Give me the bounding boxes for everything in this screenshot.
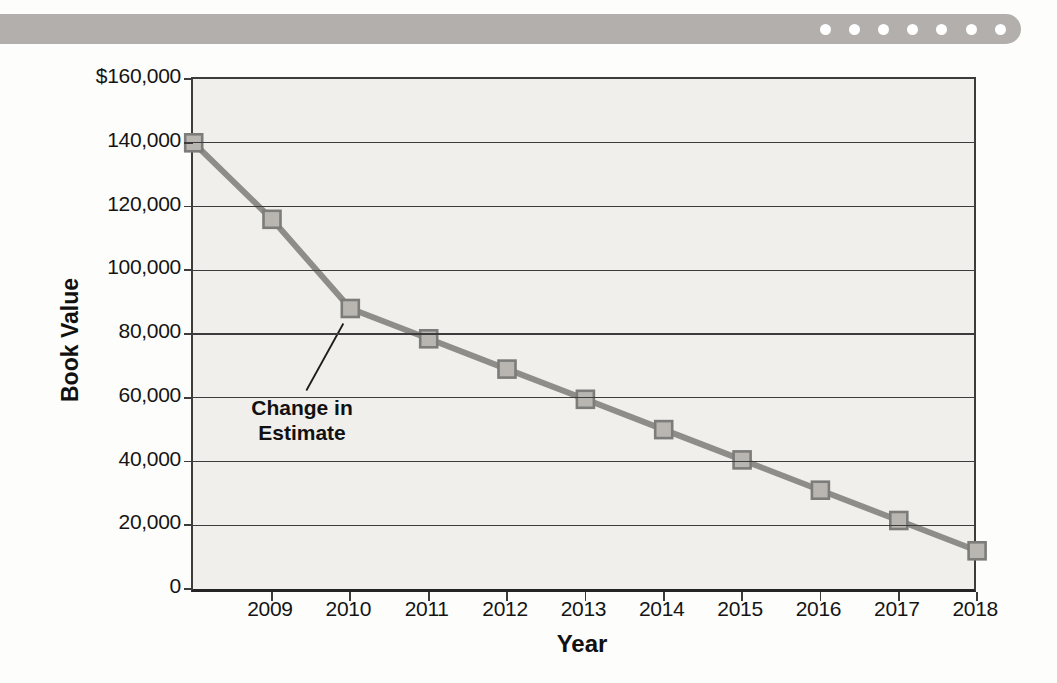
chart-figure: Book Value Change in Estimate Year $160,… xyxy=(0,0,1057,683)
y-axis-tick xyxy=(184,461,193,463)
data-point-marker xyxy=(264,211,281,228)
x-axis-title: Year xyxy=(557,630,608,658)
x-axis-tick-label: 2013 xyxy=(543,597,623,621)
gridline xyxy=(193,397,974,398)
data-point-marker xyxy=(577,391,594,408)
x-axis-tick-label: 2015 xyxy=(700,597,780,621)
gridline xyxy=(193,461,974,462)
data-point-marker xyxy=(655,421,672,438)
x-axis-tick-label: 2010 xyxy=(308,597,388,621)
x-axis-tick-label: 2009 xyxy=(230,597,310,621)
y-axis-tick-label: $160,000 xyxy=(0,64,181,88)
data-point-marker xyxy=(890,512,907,529)
data-point-marker xyxy=(812,482,829,499)
y-axis-tick xyxy=(184,333,193,335)
y-axis-tick xyxy=(184,588,193,590)
y-axis-tick xyxy=(184,397,193,399)
x-axis-tick-label: 2011 xyxy=(387,597,467,621)
y-axis-tick xyxy=(184,269,193,271)
y-axis-tick-label: 120,000 xyxy=(0,192,181,216)
x-axis-tick-label: 2014 xyxy=(622,597,702,621)
y-axis-tick xyxy=(184,524,193,526)
plot-area: Change in Estimate xyxy=(191,77,976,592)
x-axis-tick-label: 2016 xyxy=(778,597,858,621)
gridline xyxy=(193,142,974,143)
page-root: Book Value Change in Estimate Year $160,… xyxy=(0,0,1057,683)
gridline xyxy=(193,333,974,334)
x-axis-tick-label: 2017 xyxy=(857,597,937,621)
annotation-line-1: Change in xyxy=(235,395,369,420)
gridline xyxy=(193,270,974,271)
y-axis-tick-label: 0 xyxy=(0,574,181,598)
y-axis-tick-label: 20,000 xyxy=(0,510,181,534)
y-axis-tick xyxy=(184,142,193,144)
data-point-marker xyxy=(969,542,986,559)
data-point-marker xyxy=(499,361,516,378)
y-axis-tick-label: 40,000 xyxy=(0,447,181,471)
y-axis-tick-label: 100,000 xyxy=(0,255,181,279)
y-axis-tick xyxy=(184,206,193,208)
gridline xyxy=(193,206,974,207)
gridline xyxy=(193,525,974,526)
y-axis-tick xyxy=(184,78,193,80)
annotation-line-2: Estimate xyxy=(235,420,369,445)
y-axis-tick-label: 60,000 xyxy=(0,383,181,407)
y-axis-tick-label: 80,000 xyxy=(0,319,181,343)
x-axis-tick-label: 2018 xyxy=(935,597,1015,621)
data-point-marker xyxy=(342,300,359,317)
annotation-label: Change in Estimate xyxy=(235,395,369,445)
y-axis-tick-label: 140,000 xyxy=(0,128,181,152)
book-value-line xyxy=(194,143,977,551)
x-axis-tick-label: 2012 xyxy=(465,597,545,621)
